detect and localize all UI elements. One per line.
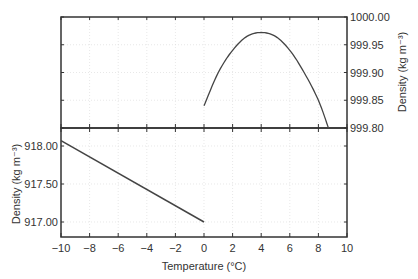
x-tick-label: 2 (230, 242, 236, 254)
y-axis-title-upper: Density (kg m⁻³) (396, 32, 408, 113)
x-tick-label: 6 (287, 242, 293, 254)
y-tick-label-lower: 917.50 (24, 178, 58, 190)
x-tick-label: 10 (341, 242, 353, 254)
tick-labels: −10−8−6−4−20246810999.80999.85999.90999.… (24, 11, 389, 254)
lower-grid (61, 128, 347, 237)
x-axis-title: Temperature (°C) (162, 260, 246, 272)
x-tick-label: −8 (83, 242, 96, 254)
x-tick-label: 8 (315, 242, 321, 254)
water-density-line (204, 33, 328, 129)
y-tick-label-upper: 999.80 (350, 122, 384, 134)
y-tick-label-upper: 999.85 (350, 94, 384, 106)
y-tick-label-upper: 999.95 (350, 39, 384, 51)
y-axis-title-lower: Density (kg m⁻³) (10, 144, 22, 225)
y-tick-label-lower: 917.00 (24, 216, 58, 228)
x-tick-label: −2 (169, 242, 182, 254)
y-tick-label-upper: 1000.00 (350, 11, 390, 23)
x-tick-label: 0 (201, 242, 207, 254)
x-tick-label: −10 (52, 242, 71, 254)
y-tick-label-lower: 918.00 (24, 140, 58, 152)
density-chart: −10−8−6−4−20246810999.80999.85999.90999.… (0, 0, 418, 279)
y-tick-label-upper: 999.90 (350, 67, 384, 79)
x-tick-label: −4 (141, 242, 154, 254)
x-tick-label: 4 (258, 242, 264, 254)
x-tick-label: −6 (112, 242, 125, 254)
ice-density-line (61, 141, 204, 222)
